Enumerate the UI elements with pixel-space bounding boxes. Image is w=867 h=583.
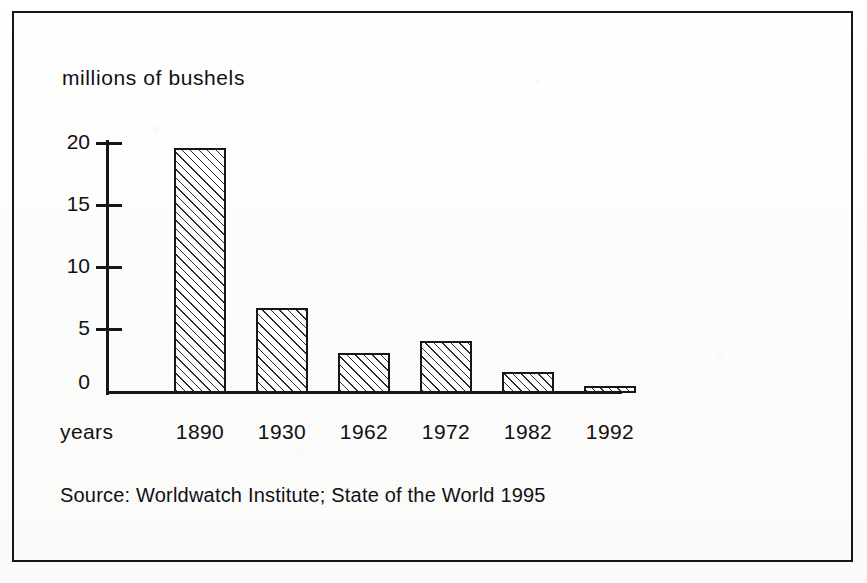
y-tick-label-10: 10 (44, 255, 90, 276)
bar-1972 (420, 341, 472, 394)
x-tick-label-1992: 1992 (560, 420, 660, 444)
y-tick-mark-10 (96, 266, 122, 269)
y-tick-label-15: 15 (44, 193, 90, 214)
y-tick-label-20: 20 (44, 131, 90, 152)
y-tick-label-5: 5 (44, 317, 90, 338)
y-tick-mark-20 (96, 142, 122, 145)
source-note: Source: Worldwatch Institute; State of t… (60, 484, 546, 507)
figure-page: millions of bushels 20 15 10 5 0 (0, 0, 867, 583)
y-tick-label-0: 0 (44, 371, 90, 392)
bar-1962 (338, 353, 390, 393)
bar-1890 (174, 148, 226, 393)
y-tick-mark-5 (96, 328, 122, 331)
bar-1930 (256, 308, 308, 393)
bar-1982 (502, 372, 554, 393)
y-tick-mark-15 (96, 204, 122, 207)
x-axis-label-years: years (60, 420, 113, 444)
bar-1992 (584, 386, 636, 394)
